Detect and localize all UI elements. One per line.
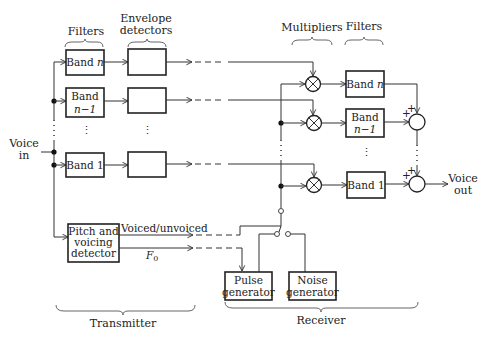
envelope-detector-n — [128, 49, 166, 75]
brace-receiver — [225, 302, 418, 312]
tx-filter-ellipsis: ⋮ — [81, 124, 92, 136]
svg-text:generator: generator — [286, 286, 340, 298]
header-labels: Filters Envelope detectors Multipliers F… — [68, 12, 383, 38]
rx-filters-header: Filters — [346, 20, 383, 33]
envelope-header-line2: detectors — [120, 24, 173, 37]
voice-out-label-2: out — [454, 184, 473, 197]
voicing-switch — [259, 209, 305, 273]
voiced-unvoiced-label: Voiced/unvoiced — [120, 222, 208, 234]
rx-filter-ellipsis: ⋮ — [361, 146, 372, 158]
pitch-voicing-detector: Pitch and voicing detector — [68, 224, 119, 262]
svg-text:Pulse: Pulse — [234, 274, 263, 286]
brace-envelope — [128, 39, 166, 47]
junction-node — [51, 149, 56, 154]
brace-rx-filters — [345, 37, 383, 45]
plus-sign: + — [407, 164, 416, 176]
svg-text:Band: Band — [71, 90, 99, 102]
switch-contact-pulse — [275, 232, 280, 237]
receiver-label: Receiver — [297, 314, 347, 327]
voice-in-label-2: in — [19, 149, 30, 162]
channel-1 — [166, 164, 314, 177]
multiplier-n-1 — [307, 116, 322, 131]
rx-filter-band-1: Band 1 — [347, 172, 385, 198]
svg-text:n−1: n−1 — [74, 103, 96, 115]
adder-n-1 — [409, 114, 425, 130]
switch-common-contact — [279, 209, 284, 214]
envelope-ellipsis: ⋮ — [142, 124, 153, 136]
plus-sign: + — [407, 102, 416, 114]
adder-1 — [409, 176, 425, 192]
switch-contact-noise — [286, 232, 291, 237]
svg-text:Band n: Band n — [66, 56, 104, 68]
multiplier-n — [306, 77, 321, 92]
f0-line — [119, 248, 242, 271]
svg-text:Band 1: Band 1 — [66, 159, 103, 171]
tx-filter-band-1: Band 1 — [66, 153, 104, 177]
noise-generator: Noise generator — [286, 272, 340, 300]
svg-text:n−1: n−1 — [354, 123, 376, 135]
envelope-detector-n-1 — [128, 88, 166, 113]
brace-transmitter — [56, 305, 195, 315]
brace-tx-filters — [65, 39, 103, 47]
tx-filters-header: Filters — [68, 25, 105, 38]
svg-text:Band 1: Band 1 — [347, 179, 384, 191]
transmitter-label: Transmitter — [90, 317, 157, 330]
channel-n — [166, 62, 313, 76]
svg-text:Band: Band — [351, 111, 379, 123]
wire-pulse-to-switch — [259, 234, 275, 272]
header-braces — [65, 37, 383, 47]
pulse-generator: Pulse generator — [222, 272, 276, 300]
rx-filter-band-n: Band n — [346, 71, 384, 97]
brace-multipliers — [292, 37, 332, 45]
wire-noise-to-switch — [291, 234, 306, 272]
multipliers-header: Multipliers — [281, 21, 343, 34]
svg-text:generator: generator — [222, 286, 276, 298]
vocoder-diagram: Filters Envelope detectors Multipliers F… — [0, 0, 489, 340]
multiplier-1 — [307, 178, 322, 193]
tx-filter-band-n: Band n — [66, 50, 104, 75]
svg-text:detector: detector — [71, 247, 117, 259]
rx-filter-band-n-1: Band n−1 — [346, 109, 384, 137]
svg-text:Noise: Noise — [297, 274, 327, 286]
svg-text:Band n: Band n — [346, 78, 384, 90]
channel-n-1 — [166, 100, 313, 115]
f0-label: F0 — [145, 249, 158, 263]
tx-filter-band-n-1: Band n−1 — [66, 88, 104, 117]
envelope-detector-1 — [128, 152, 166, 177]
